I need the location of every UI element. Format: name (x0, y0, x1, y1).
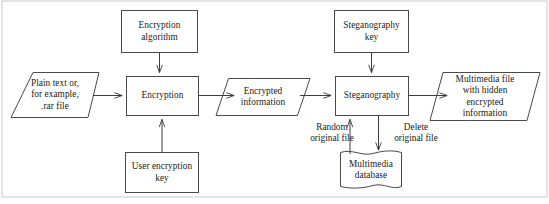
shape-steganography-key (335, 11, 409, 53)
flowchart-diagram: Encryption algorithm Steganography key P… (0, 0, 549, 204)
shape-encryption-algorithm (122, 11, 198, 53)
shape-multimedia-database (341, 151, 402, 188)
shape-multimedia-file-output (430, 73, 540, 121)
label-random-original-file: Random original file (297, 122, 367, 144)
label-delete-original-file: Delete original file (381, 122, 451, 144)
shape-steganography (336, 77, 409, 116)
shape-user-encryption-key (126, 153, 199, 193)
diagram-canvas (0, 0, 549, 204)
shape-encryption (127, 77, 199, 116)
shape-encrypted-information (216, 79, 310, 116)
shape-plain-text-input (11, 73, 99, 118)
